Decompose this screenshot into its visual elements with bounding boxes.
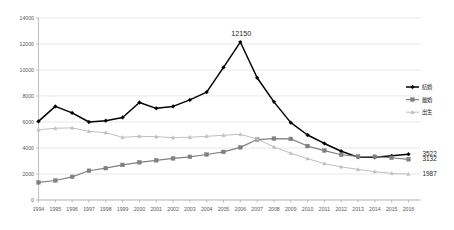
data-point-marker [272,137,276,141]
x-tick-label: 1999 [117,206,129,212]
data-point-marker [323,149,327,153]
x-tick-label: 2004 [201,206,213,212]
data-point-marker [373,155,377,159]
data-point-marker [154,158,158,162]
x-tick-label: 2000 [134,206,146,212]
x-tick-label: 1994 [33,206,45,212]
x-tick-label: 2014 [369,206,381,212]
x-tick-label: 2002 [167,206,179,212]
data-point-marker [407,157,411,161]
legend-label: 出生 [422,108,433,116]
data-point-marker [238,145,242,149]
x-tick-label: 2008 [268,206,280,212]
y-tick-label: 4000 [22,145,34,151]
x-tick-label: 1997 [83,206,95,212]
legend-label: 結婚 [422,83,433,91]
data-point-marker [339,153,343,157]
chart-background [0,0,454,230]
x-tick-label: 2011 [319,206,330,212]
data-point-marker [104,166,108,170]
x-tick-label: 2012 [335,206,347,212]
end-label-出生: 1987 [423,170,438,177]
data-point-marker [53,179,57,183]
x-tick-label: 2016 [403,206,415,212]
x-tick-label: 2009 [285,206,297,212]
peak-value-label: 12150 [231,29,251,38]
y-tick-label: 0 [31,197,34,203]
peak-annotation: 12150 [231,29,251,38]
data-point-marker [138,160,142,164]
x-tick-label: 2001 [150,206,162,212]
x-tick-label: 1996 [66,206,78,212]
data-point-marker [411,98,415,102]
data-point-marker [289,137,293,141]
x-tick-label: 1995 [50,206,62,212]
data-point-marker [390,156,394,160]
data-point-marker [87,169,91,173]
y-tick-label: 14000 [20,15,35,21]
chart-canvas: 14000120001000080006000400020000 1994199… [0,0,454,230]
data-point-marker [121,163,125,167]
x-tick-label: 2010 [302,206,314,212]
x-tick-label: 2007 [251,206,263,212]
y-tick-label: 2000 [22,171,34,177]
data-point-marker [222,150,226,154]
x-tick-label: 2005 [218,206,230,212]
x-tick-label: 2003 [184,206,196,212]
data-point-marker [188,155,192,159]
x-tick-label: 2015 [386,206,398,212]
x-tick-label: 2013 [352,206,364,212]
y-tick-label: 8000 [22,93,34,99]
y-tick-label: 6000 [22,119,34,125]
y-tick-label: 12000 [20,41,35,47]
x-tick-label: 1998 [100,206,112,212]
data-point-marker [306,144,310,148]
data-point-marker [171,157,175,161]
y-tick-label: 10000 [20,67,35,73]
line-chart: 14000120001000080006000400020000 1994199… [0,0,454,230]
legend-label: 離婚 [422,96,433,104]
data-point-marker [205,153,209,157]
end-label-離婚: 3132 [423,155,438,162]
x-tick-label: 2006 [235,206,247,212]
data-point-marker [37,181,41,185]
data-point-marker [356,155,360,159]
data-point-marker [70,175,74,179]
